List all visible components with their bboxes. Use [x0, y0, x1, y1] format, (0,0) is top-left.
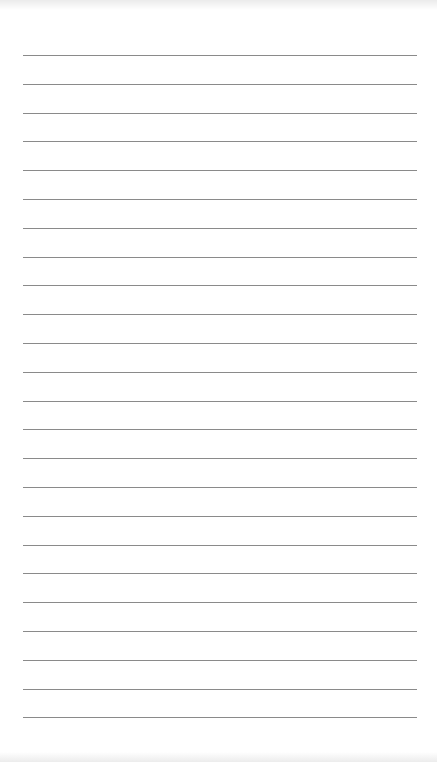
- ruled-line: [23, 199, 417, 200]
- ruled-line: [23, 631, 417, 632]
- ruled-line: [23, 343, 417, 344]
- ruled-line: [23, 84, 417, 85]
- ruled-line: [23, 573, 417, 574]
- bottom-edge-shadow: [0, 752, 437, 762]
- ruled-line: [23, 602, 417, 603]
- ruled-line: [23, 228, 417, 229]
- ruled-line: [23, 429, 417, 430]
- ruled-line: [23, 285, 417, 286]
- ruled-line: [23, 170, 417, 171]
- top-edge-shadow: [0, 0, 437, 10]
- ruled-line: [23, 689, 417, 690]
- ruled-line: [23, 717, 417, 718]
- ruled-line: [23, 314, 417, 315]
- ruled-line: [23, 141, 417, 142]
- ruled-line: [23, 401, 417, 402]
- ruled-line: [23, 487, 417, 488]
- ruled-line: [23, 372, 417, 373]
- ruled-line: [23, 458, 417, 459]
- ruled-line: [23, 545, 417, 546]
- ruled-line: [23, 113, 417, 114]
- ruled-line: [23, 55, 417, 56]
- ruled-line: [23, 660, 417, 661]
- ruled-line: [23, 257, 417, 258]
- ruled-line: [23, 516, 417, 517]
